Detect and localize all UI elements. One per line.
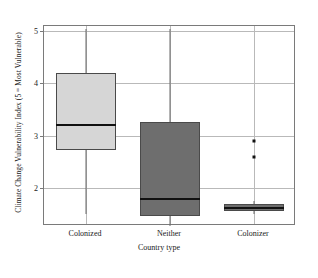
plot-area: 2345: [43, 25, 295, 225]
y-axis-title: Climate Change Vulnerability Index (5 = …: [14, 13, 23, 233]
median-line: [224, 207, 284, 209]
box-plot-figure: Climate Change Vulnerability Index (5 = …: [0, 0, 318, 278]
y-axis-tick: [40, 83, 44, 84]
x-axis-tick-label: Colonized: [69, 229, 102, 238]
y-axis-tick-label: 4: [34, 79, 38, 88]
y-axis-tick-label: 3: [34, 131, 38, 140]
y-axis-tick: [40, 188, 44, 189]
y-axis-tick: [40, 31, 44, 32]
y-axis-tick: [40, 136, 44, 137]
box-neither: [140, 122, 200, 216]
x-axis-tick-label: Colonizer: [237, 229, 269, 238]
box-colonized: [56, 73, 116, 150]
outlier-point: [253, 155, 256, 158]
median-line: [140, 198, 200, 200]
y-axis-tick-label: 2: [34, 183, 38, 192]
outlier-point: [253, 139, 256, 142]
median-line: [56, 124, 116, 126]
data-layer: [44, 26, 294, 224]
y-axis-tick-label: 5: [34, 27, 38, 36]
x-axis-title: Country type: [0, 243, 318, 252]
x-axis-tick-label: Neither: [157, 229, 181, 238]
